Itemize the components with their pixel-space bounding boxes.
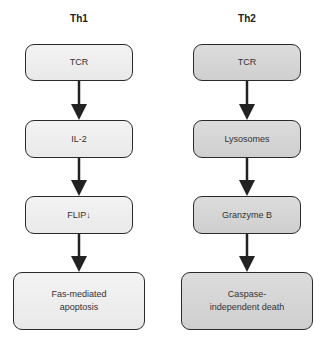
arrow-th1-3 <box>71 234 87 272</box>
arrow-th2-1 <box>239 81 255 120</box>
arrow-th1-1 <box>71 81 87 120</box>
arrow-th1-2 <box>71 158 87 196</box>
arrow-th2-3 <box>239 234 255 272</box>
arrow-th2-2 <box>239 158 255 196</box>
arrows-layer <box>0 0 326 343</box>
